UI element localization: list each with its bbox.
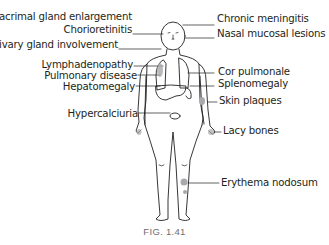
lymph-node-shade (157, 63, 163, 77)
lacy-bone-hand (208, 129, 214, 135)
label-splenomegaly: Splenomegaly (218, 78, 288, 90)
skin-plaque-lesion (199, 97, 205, 105)
left-hand-shade (137, 129, 142, 135)
spleen-outline (186, 88, 191, 99)
face-features (168, 33, 178, 40)
erythema-lesion-2 (183, 190, 187, 194)
label-lacy-bones: Lacy bones (223, 125, 279, 137)
erythema-lesion-1 (181, 179, 188, 186)
label-chronic-meningitis: Chronic meningitis (217, 13, 309, 25)
bladder-outline (170, 113, 180, 119)
label-cor-pulmonale: Cor pulmonale (218, 66, 290, 78)
label-skin-plaques: Skin plaques (219, 95, 282, 107)
label-erythema-nodosum: Erythema nodosum (221, 177, 318, 189)
label-salivary-gland: Salivary gland involvement (0, 39, 118, 51)
knee-marks (159, 165, 187, 166)
label-lacrimal-gland: Lacrimal gland enlargement (0, 11, 132, 23)
liver-outline (156, 85, 186, 100)
label-hepatomegaly: Hepatomegaly (63, 81, 135, 93)
label-nasal-mucosal-lesions: Nasal mucosal lesions (217, 28, 325, 40)
torso-outline (144, 49, 203, 125)
label-hypercalciuria: Hypercalciuria (68, 108, 138, 120)
figure-caption: FIG. 1.41 (0, 226, 329, 237)
left-arm-outline (136, 64, 147, 133)
label-chorioretinitis: Chorioretinitis (63, 24, 132, 36)
legs-outline (145, 125, 202, 221)
